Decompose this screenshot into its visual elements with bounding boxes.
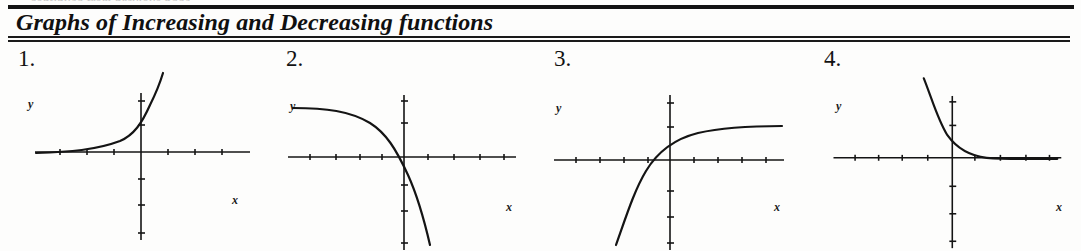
graph-panel-3: 3. y x	[536, 45, 806, 251]
top-cropped-text-fragment: continued from previous page	[30, 0, 190, 1]
graph-3-curve	[616, 126, 782, 245]
page-title: Graphs of Increasing and Decreasing func…	[16, 9, 493, 36]
graph-2-curve	[293, 108, 430, 245]
graph-2-plot	[268, 45, 538, 251]
graph-panel-4: 4. y x	[806, 45, 1076, 251]
graph-4-curve	[924, 78, 1058, 159]
header-rule-bottom-lower	[8, 40, 1070, 42]
graph-panel-1: 1. y x	[0, 45, 270, 251]
worksheet-page: continued from previous page Graphs of I…	[0, 0, 1081, 251]
graph-4-plot	[806, 45, 1076, 251]
graph-panel-2: 2. y x	[268, 45, 538, 251]
header-rule-bottom-upper	[8, 36, 1070, 38]
graph-1-curve	[36, 73, 163, 153]
graph-3-plot	[536, 45, 806, 251]
graph-1-plot	[0, 45, 270, 251]
